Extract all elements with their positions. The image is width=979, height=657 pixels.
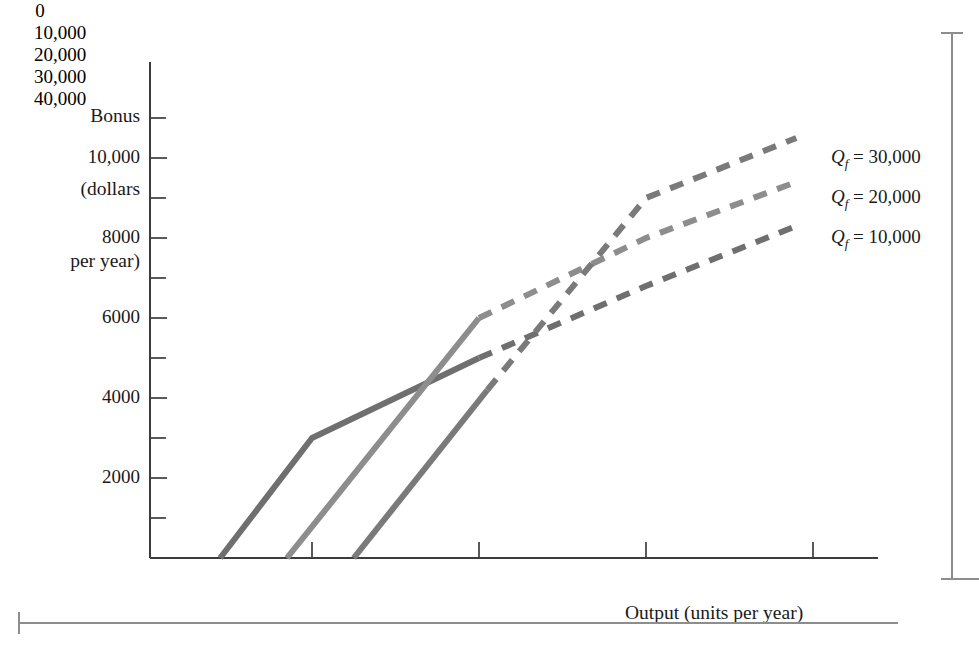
series-2	[354, 138, 797, 558]
page-horizontal-rule-left-cap	[18, 612, 20, 634]
x-axis-title: Output (units per year)	[625, 601, 803, 624]
y-axis-title-line-2: (dollars	[62, 177, 140, 201]
page-vertical-rule-bottom-cap	[941, 578, 979, 580]
series-1	[287, 182, 796, 558]
y-tick-label-10000: 10,000	[40, 146, 140, 168]
y-axis-title-line-3: per year)	[62, 249, 140, 273]
series-label-qf-10000-base: Q	[831, 226, 845, 247]
series-line-dashed	[487, 138, 796, 390]
y-axis-title: Bonus (dollars per year)	[62, 56, 140, 322]
y-tick-label-6000: 6000	[40, 306, 140, 328]
y-tick-label-8000: 8000	[40, 226, 140, 248]
page-horizontal-rule	[18, 622, 898, 624]
figure-container: Bonus (dollars per year) 10,000 8000 600…	[0, 0, 979, 657]
y-tick-label-4000: 4000	[40, 386, 140, 408]
series-layer	[220, 138, 796, 558]
y-axis-title-line-1: Bonus	[62, 104, 140, 128]
x-axis-ticks	[312, 542, 813, 558]
y-axis-major-ticks	[150, 158, 167, 478]
page-vertical-rule	[951, 32, 953, 580]
series-line-solid	[220, 358, 479, 558]
page-vertical-rule-top-cap	[941, 32, 963, 34]
series-line-dashed	[479, 182, 796, 318]
y-tick-label-2000: 2000	[40, 466, 140, 488]
series-label-qf-10000-rest: = 10,000	[848, 226, 920, 247]
series-label-qf-10000: Qf = 10,000	[812, 204, 921, 274]
series-line-solid	[354, 390, 488, 558]
chart-plot-area	[0, 0, 979, 657]
series-0	[220, 226, 796, 558]
